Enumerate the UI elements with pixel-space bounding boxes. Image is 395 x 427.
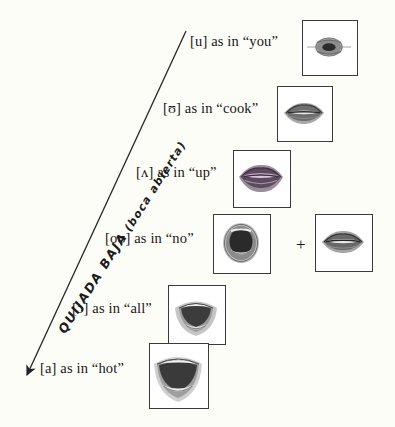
mouth-photo-ou-no-open	[213, 214, 271, 274]
vowel-label-upsilon-cook: [ʊ] as in “cook”	[163, 100, 258, 117]
vowel-row-a-hot: [a] as in “hot”	[40, 360, 124, 377]
vowel-row-caret-up: [ʌ] as in “up”	[136, 164, 217, 181]
vowel-row-ou-no: [oʊ] as in “no”	[105, 230, 194, 247]
mouth-art-a-hot	[150, 344, 206, 406]
mouth-photo-caret-up	[233, 150, 291, 208]
vowel-row-upsilon-cook: [ʊ] as in “cook”	[163, 100, 258, 117]
mouth-art-upsilon-cook	[278, 87, 330, 139]
vowel-label-a-hot: [a] as in “hot”	[40, 360, 124, 377]
plus-symbol-ou-no: +	[296, 236, 306, 253]
mouth-photo-a-hot	[149, 343, 209, 409]
mouth-art-u-you	[303, 21, 355, 73]
mouth-art-openo-all	[169, 286, 223, 342]
axis-caption-paren: (boca abierta)	[122, 139, 189, 234]
vowel-label-ou-no: [oʊ] as in “no”	[105, 230, 194, 247]
vowel-label-u-you: [u] as in “you”	[190, 33, 278, 50]
vowel-jaw-diagram: QUIJADA BAJA (boca abierta) [u] as in “y…	[0, 0, 395, 427]
axis-line	[27, 31, 186, 375]
mouth-photo-u-you	[302, 20, 358, 76]
mouth-art-ou-no-open	[214, 215, 268, 271]
vowel-row-u-you: [u] as in “you”	[190, 33, 278, 50]
mouth-photo-openo-all	[168, 285, 226, 345]
mouth-photo-upsilon-cook	[277, 86, 333, 142]
mouth-art-ou-no-close	[316, 215, 370, 269]
vowel-row-openo-all: [ɔ] as in “all”	[72, 300, 152, 317]
vowel-label-openo-all: [ɔ] as in “all”	[72, 300, 152, 317]
vowel-label-caret-up: [ʌ] as in “up”	[136, 164, 217, 181]
mouth-photo-ou-no-close	[315, 214, 373, 272]
mouth-art-caret-up	[234, 151, 288, 205]
